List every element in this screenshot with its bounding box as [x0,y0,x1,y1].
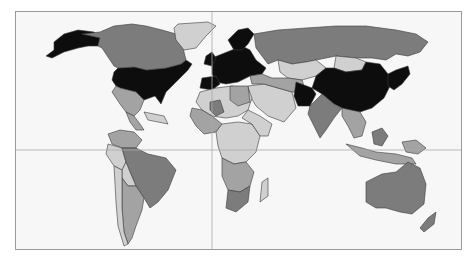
region-greenland [174,22,216,50]
region-borneo [372,128,388,146]
region-australia [366,162,426,214]
region-madagascar [260,178,268,202]
region-scandinavia [228,28,254,50]
region-central-africa [216,122,260,164]
world-choropleth-map [16,12,462,250]
region-papua [402,140,426,154]
region-canada [82,24,186,70]
region-southeast-asia [342,108,366,138]
region-japan-korea [388,66,410,90]
region-new-zealand [420,212,436,232]
world-map-frame [15,11,462,250]
region-caribbean [144,112,168,124]
country-regions [46,22,436,246]
